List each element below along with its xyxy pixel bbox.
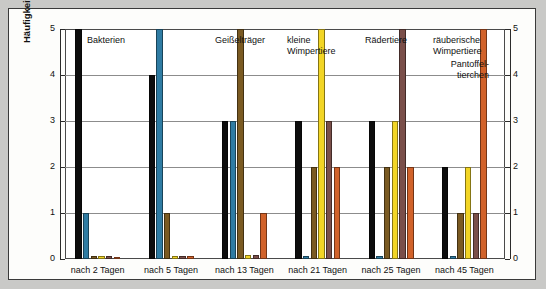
bar-4-1 [376,256,383,259]
bar-5-1 [450,256,457,259]
y-label-left-2: 2 [39,162,55,171]
series-annotation-raedertiere: Rädertiere [365,35,407,46]
bar-0-2 [91,256,98,259]
series-annotation-kleine-wimpertiere: kleine Wimpertiere [287,35,336,57]
series-annotation-bakterien: Bakterien [87,35,125,46]
y-label-right-3: 3 [513,116,527,125]
bar-0-3 [98,256,105,259]
bar-1-5 [187,256,194,259]
bar-0-4 [106,256,113,259]
bar-2-1 [230,121,237,259]
gridline-1 [65,213,505,214]
y-label-left-4: 4 [39,70,55,79]
bar-5-0 [442,167,449,259]
bar-3-5 [334,167,341,259]
bar-2-0 [222,121,229,259]
bar-2-5 [260,213,267,259]
bar-2-4 [253,255,260,259]
bar-1-0 [149,75,156,259]
bar-1-4 [179,256,186,259]
series-annotation-geisseltraeger: Geißelträger [215,35,265,46]
bar-3-3 [318,29,325,259]
bar-3-1 [303,256,310,259]
y-tick-right-0 [505,259,510,260]
bar-0-0 [75,29,82,259]
x-label-1: nach 5 Tagen [131,265,211,275]
y-axis-spine-left [60,29,61,259]
bar-5-4 [473,213,480,259]
x-label-3: nach 21 Tagen [278,265,358,275]
bar-3-0 [295,121,302,259]
bar-4-5 [407,167,414,259]
x-label-4: nach 25 Tagen [351,265,431,275]
y-axis-spine-right [510,29,511,259]
bar-2-2 [237,29,244,259]
x-label-2: nach 13 Tagen [204,265,284,275]
y-label-right-0: 0 [513,254,527,263]
y-label-right-4: 4 [513,70,527,79]
bar-4-0 [369,121,376,259]
bar-1-3 [172,256,179,259]
gridline-2 [65,167,505,168]
chart-frame: Häufigkeit 001122334455 BakterienGeißelt… [8,8,536,280]
y-axis-title: Häufigkeit [21,0,32,43]
bar-2-3 [245,255,252,259]
y-label-left-0: 0 [39,254,55,263]
x-label-0: nach 2 Tagen [58,265,138,275]
bar-4-2 [384,167,391,259]
y-label-right-5: 5 [513,24,527,33]
gridline-3 [65,121,505,122]
bar-1-1 [156,29,163,259]
y-tick-left-0 [60,259,65,260]
y-label-left-1: 1 [39,208,55,217]
y-label-right-1: 1 [513,208,527,217]
y-label-left-5: 5 [39,24,55,33]
series-annotation-raeuberische-wimpertiere: räuberische Wimpertiere [433,35,482,57]
x-label-5: nach 45 Tagen [424,265,504,275]
bar-5-3 [465,167,472,259]
bar-1-2 [164,213,171,259]
series-annotation-pantoffeltierchen: Pantoffel- tierchen [365,59,489,81]
bar-0-1 [83,213,90,259]
bar-5-2 [457,213,464,259]
bar-3-2 [311,167,318,259]
bar-4-3 [392,121,399,259]
y-label-left-3: 3 [39,116,55,125]
y-label-right-2: 2 [513,162,527,171]
plot-area: 001122334455 BakterienGeißelträgerkleine… [65,29,505,259]
bar-3-4 [326,121,333,259]
bar-0-5 [114,257,121,259]
